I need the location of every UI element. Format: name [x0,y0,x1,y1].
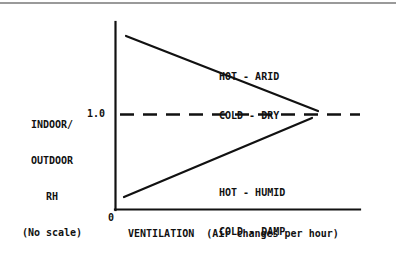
y-axis-label-line-2: OUTDOOR [14,155,90,167]
annotation-lower: HOT - HUMID COLD - DAMP [219,160,285,258]
x-axis-label-gap [194,228,206,239]
x-axis-label-main: VENTILATION [128,228,194,239]
annotation-upper-line-1: HOT - ARID [219,70,279,83]
x-axis-label: VENTILATION (Air changes per hour) [128,228,339,240]
y-axis-label: INDOOR/ OUTDOOR RH (No scale) [14,95,90,258]
annotation-upper-line-2: COLD - DRY [219,109,279,122]
y-axis-label-line-4: (No scale) [14,227,90,239]
y-axis-label-line-1: INDOOR/ [14,119,90,131]
x-axis-label-sub: (Air changes per hour) [206,228,338,239]
origin-tick-label-zero: 0 [108,212,114,224]
figure-canvas: INDOOR/ OUTDOOR RH (No scale) 1.0 0 HOT … [0,0,396,258]
y-axis-tick-label-one: 1.0 [87,108,105,120]
annotation-lower-line-1: HOT - HUMID [219,186,285,199]
annotation-upper: HOT - ARID COLD - DRY [219,44,279,148]
y-axis-label-line-3: RH [14,191,90,203]
